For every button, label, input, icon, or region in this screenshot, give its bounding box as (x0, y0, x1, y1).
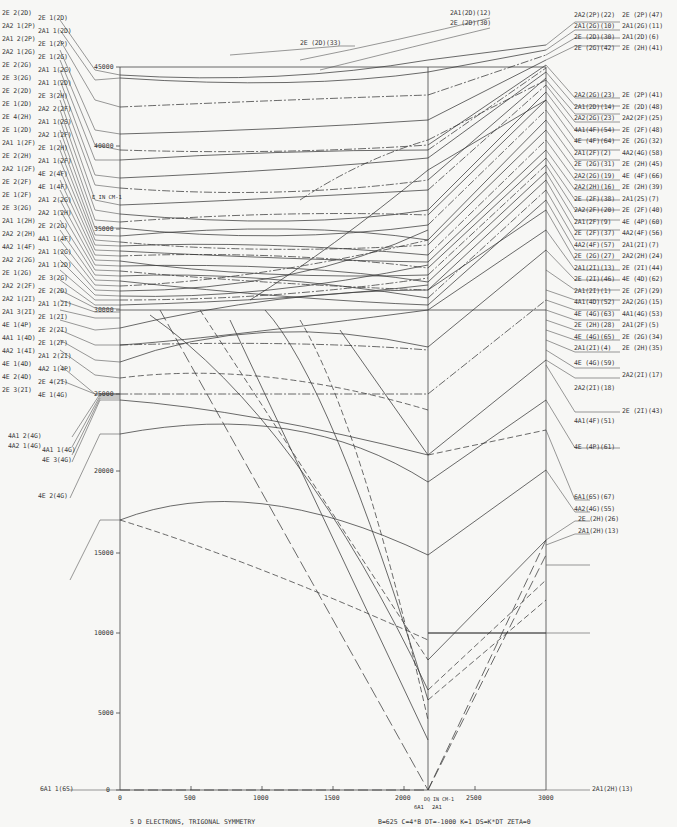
right-state-label: 2A1(2F)(5) (622, 322, 659, 329)
x-tick-500: 500 (184, 794, 196, 802)
right-state-label: 2A1(2I)(4) (574, 345, 611, 352)
left-term-label: 2A2 1(2G) (2, 49, 35, 56)
right-state-label: 2E (2H)(35) (622, 345, 663, 352)
y-tick-15000: 15000 (94, 549, 114, 557)
left-term-label: 4A1 2(4G) (8, 433, 41, 440)
left-term-label: 2E 1(2D) (2, 101, 32, 108)
left-term-label: 2E 3(2G) (2, 75, 32, 82)
right-state-label: 2E (2D)(30) (574, 34, 615, 41)
left-term-label: 4E 3(4G) (42, 457, 72, 464)
left-term-label: 2E 2(2I) (38, 327, 68, 334)
right-state-label: 2E (2I)(43) (622, 408, 663, 415)
right-state-label: 4A2(4F)(56) (622, 230, 663, 237)
right-state-label: 2A1(2F)(9) (574, 219, 611, 226)
y-tick-20000: 20000 (94, 467, 114, 475)
right-state-label: 2A2(2G)(19) (574, 173, 615, 180)
right-state-label: 2E (2P)(41) (622, 92, 663, 99)
left-term-label: 2A2 1(2P) (2, 23, 35, 30)
right-state-label: 2E (2F)(38) (574, 196, 615, 203)
y-tick-10000: 10000 (94, 629, 114, 637)
right-state-label: 2E (2H)(26) (578, 516, 619, 523)
right-connectors (230, 18, 620, 790)
left-term-label: 2E 3(2G) (2, 205, 32, 212)
bottom-right-label: 2A1(2H)(13) (592, 786, 633, 793)
left-term-label: 2E 3(2G) (38, 275, 68, 282)
right-state-label: 2E (2H)(45) (622, 161, 663, 168)
left-term-label: 2A2 2(2H) (2, 231, 35, 238)
y-tick-40000: 40000 (94, 142, 114, 150)
left-term-label: 2E 2(2D) (38, 288, 68, 295)
right-state-label: 4E (4G)(65) (574, 334, 615, 341)
right-state-label: 2E (2I)(44) (622, 265, 663, 272)
right-state-label: 2A2(2F)(20) (574, 207, 615, 214)
left-term-label: 2A1 1(2D) (38, 262, 71, 269)
left-term-label: 2E 2(2H) (2, 153, 32, 160)
left-term-label: 4E 2(4F) (38, 171, 68, 178)
left-term-label: 4E 2(4G) (38, 493, 68, 500)
right-state-label: 2A2(2H)(16) (574, 184, 615, 191)
left-term-label: 4E 1(4F) (38, 184, 68, 191)
right-state-label: 2A1(2G)(11) (622, 23, 663, 30)
left-term-label: 2A1 3(2I) (2, 309, 35, 316)
right-state-label: 2E (2P)(47) (622, 12, 663, 19)
right-state-label: 2E (2H)(41) (622, 45, 663, 52)
left-term-label: 2A2 2(2G) (2, 257, 35, 264)
left-term-label: 2E 3(2I) (2, 387, 32, 394)
left-term-label: 4A2 1(4P) (38, 366, 71, 373)
right-state-label: 4A1(4F)(51) (574, 418, 615, 425)
crossover-left-label: 6A1 (414, 804, 424, 810)
left-term-label: 2E 1(2G) (38, 54, 68, 61)
right-state-label: 2E (2F)(48) (622, 127, 663, 134)
right-state-label: 2A1(2I)(13) (574, 265, 615, 272)
right-state-label: 2A2(2G)(23) (574, 115, 615, 122)
chart-parameters: B=625 C=4*B DT=-1000 K=1 DS=K*DT ZETA=0 (378, 818, 531, 826)
left-term-label: 2E 2(2G) (2, 62, 32, 69)
x-axis-title: DQ IN CM-1 (424, 796, 454, 802)
left-term-label: 2A1 1(2D) (38, 28, 71, 35)
left-term-label: 2E 4(2I) (38, 379, 68, 386)
left-term-label: 2A1 1(2S) (38, 119, 71, 126)
right-state-label: 4A1(4G)(53) (622, 311, 663, 318)
left-term-label: 2E 1(2F) (38, 340, 68, 347)
left-term-label: 4A2 1(4I) (2, 348, 35, 355)
y-ticks (116, 67, 120, 790)
left-term-label: 2A2 1(2F) (38, 132, 71, 139)
right-state-label: 2A2(2F)(25) (622, 115, 663, 122)
y-axis-title: E IN CM-1 (92, 194, 122, 200)
left-term-label: 2A2 2(2F) (2, 283, 35, 290)
left-term-label: 4A2 1(4F) (2, 244, 35, 251)
left-term-label: 2A1 1(2H) (2, 218, 35, 225)
right-state-label: 2E (2I)(46) (574, 276, 615, 283)
x-tick-3000: 3000 (538, 794, 554, 802)
right-state-label: 2E (2F)(37) (574, 230, 615, 237)
right-state-label: 4E (4G)(63) (574, 311, 615, 318)
right-state-label: 2A1(2S)(7) (622, 196, 659, 203)
right-state-label: 2A2(2H)(24) (622, 253, 663, 260)
left-term-label: 2A1 1(2I) (38, 301, 71, 308)
curves-high-field (428, 45, 546, 790)
top-label-c: 2E (2D)(33) (300, 40, 341, 47)
left-term-label: 2E 1(2H) (38, 145, 68, 152)
left-term-label: 2E 1(2I) (38, 314, 68, 321)
top-label-a: 2A1(2D)(12) (450, 10, 491, 17)
right-state-label: 2E (2H)(39) (622, 184, 663, 191)
left-term-label: 2A1 1(2G) (38, 249, 71, 256)
y-tick-5000: 5000 (98, 709, 114, 717)
right-state-label: 2E (2F)(29) (622, 288, 663, 295)
right-state-label: 4A2(4G)(55) (574, 506, 615, 513)
right-state-label: 2E (2H)(28) (574, 322, 615, 329)
left-term-label: 2E 1(2F) (2, 192, 32, 199)
right-state-label: 2E (2G)(34) (622, 334, 663, 341)
x-tick-2500: 2500 (466, 794, 482, 802)
left-term-label: 2E 1(2P) (38, 41, 68, 48)
x-tick-1500: 1500 (324, 794, 340, 802)
y-tick-35000: 35000 (94, 225, 114, 233)
left-term-label: 2E 1(2D) (38, 15, 68, 22)
right-state-label: 2A2(2P)(22) (574, 12, 615, 19)
left-term-label: 2A2 2(2F) (38, 106, 71, 113)
left-term-label: 2A1 2(2I) (38, 353, 71, 360)
right-state-label: 4E (4F)(64) (574, 138, 615, 145)
left-term-label: 2A1 1(2D) (38, 80, 71, 87)
right-state-label: 2A2(2I)(17) (622, 372, 663, 379)
right-state-label: 2E (2G)(42) (574, 45, 615, 52)
